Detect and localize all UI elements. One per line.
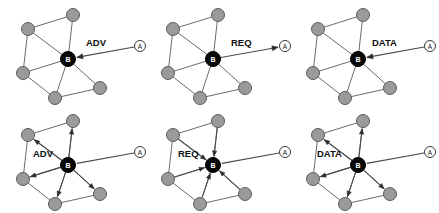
neighbor-node — [357, 115, 370, 128]
neighbor-node — [384, 82, 397, 95]
arrowhead-icon — [31, 173, 37, 177]
neighbor-node — [212, 9, 225, 22]
arrowhead-icon — [321, 173, 327, 177]
panel-graph-panel-1: ADVBA — [0, 0, 149, 107]
neighbor-node — [167, 129, 180, 142]
neighbor-node — [67, 9, 80, 22]
neighbor-node — [339, 92, 352, 105]
neighbor-node — [312, 23, 325, 36]
node-label-a: A — [138, 149, 143, 156]
neighbor-node — [312, 129, 325, 142]
neighbor-node — [167, 23, 180, 36]
message-label-data: DATA — [317, 148, 342, 159]
neighbor-node — [384, 188, 397, 201]
neighbor-node — [49, 198, 62, 211]
neighbor-node — [67, 115, 80, 128]
panel-top-2: REQBA — [145, 0, 294, 107]
spin-protocol-figure: ADVBAREQBADATABAADVBAREQBADATABA — [0, 0, 439, 213]
message-label-adv: ADV — [86, 37, 107, 48]
neighbor-node — [339, 198, 352, 211]
neighbor-node — [307, 67, 320, 80]
arrowhead-icon — [206, 174, 210, 180]
graph-edge — [28, 15, 73, 29]
node-label-b: B — [210, 162, 215, 169]
node-label-a: A — [428, 149, 433, 156]
node-label-a: A — [283, 149, 288, 156]
node-label-a: A — [283, 43, 288, 50]
neighbor-node — [94, 82, 107, 95]
graph-edge — [318, 121, 363, 135]
neighbor-node — [49, 92, 62, 105]
neighbor-node — [357, 9, 370, 22]
neighbor-node — [239, 82, 252, 95]
message-label-req: REQ — [231, 37, 252, 48]
message-link-a-b — [221, 47, 278, 57]
neighbor-node — [22, 23, 35, 36]
neighbor-node — [162, 173, 175, 186]
arrowhead-icon — [199, 167, 205, 171]
panel-top-3: DATABA — [290, 0, 439, 107]
arrowhead-icon — [359, 129, 363, 134]
graph-edge — [28, 121, 73, 135]
neighbor-node — [239, 188, 252, 201]
node-label-a: A — [138, 43, 143, 50]
panel-bottom-2: REQBA — [145, 106, 294, 213]
message-label-data: DATA — [372, 37, 397, 48]
neighbor-node — [162, 67, 175, 80]
neighbor-node — [194, 92, 207, 105]
graph-edge — [318, 15, 363, 29]
node-label-b: B — [65, 162, 70, 169]
arrowhead-icon — [69, 129, 73, 134]
message-link-a-b — [367, 47, 424, 57]
graph-edge — [173, 15, 218, 29]
panel-graph-panel-3: DATABA — [290, 0, 439, 107]
message-link-a-b — [222, 153, 279, 163]
panel-bottom-1: ADVBA — [0, 106, 149, 213]
message-link-a-b — [77, 47, 134, 57]
arrowhead-icon — [57, 191, 61, 197]
node-label-b: B — [210, 56, 215, 63]
panel-graph-panel-6: DATABA — [290, 106, 439, 213]
arrowhead-icon — [212, 151, 216, 156]
panel-graph-panel-4: ADVBA — [0, 106, 149, 213]
neighbor-node — [94, 188, 107, 201]
node-label-b: B — [355, 162, 360, 169]
arrowhead-icon — [77, 54, 83, 59]
panel-graph-panel-2: REQBA — [145, 0, 294, 107]
node-label-a: A — [428, 43, 433, 50]
message-link-a-b — [367, 153, 424, 163]
neighbor-node — [194, 198, 207, 211]
panel-bottom-3: DATABA — [290, 106, 439, 213]
message-label-req: REQ — [178, 148, 199, 159]
neighbor-node — [22, 129, 35, 142]
node-label-b: B — [355, 56, 360, 63]
panel-graph-panel-5: REQBA — [145, 106, 294, 213]
arrowhead-icon — [367, 54, 373, 59]
message-label-adv: ADV — [33, 148, 54, 159]
neighbor-node — [212, 115, 225, 128]
neighbor-node — [17, 173, 30, 186]
message-link-a-b — [77, 153, 134, 163]
neighbor-node — [307, 173, 320, 186]
node-label-b: B — [65, 56, 70, 63]
arrowhead-icon — [347, 191, 351, 197]
arrowhead-icon — [272, 46, 278, 51]
panel-top-1: ADVBA — [0, 0, 149, 107]
neighbor-node — [17, 67, 30, 80]
graph-edge — [173, 121, 218, 135]
